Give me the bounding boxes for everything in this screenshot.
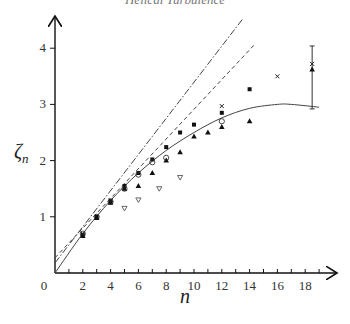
data-point-triangle-down-open xyxy=(157,187,162,192)
x-tick-label: 2 xyxy=(80,278,87,293)
data-point-triangle-filled xyxy=(177,149,183,154)
data-point-triangle-filled xyxy=(219,124,225,129)
data-point-triangle-down-open xyxy=(122,206,127,211)
y-axis-label: ζn xyxy=(14,140,29,166)
data-point-cross xyxy=(220,104,224,108)
x-tick-label: 12 xyxy=(215,278,228,293)
dash-dot-line xyxy=(55,19,243,263)
data-point-triangle-filled xyxy=(205,130,211,135)
origin-label: 0 xyxy=(41,278,48,293)
x-axis-label: n xyxy=(180,285,190,307)
data-point-circle-open xyxy=(219,119,224,124)
data-point-square-filled xyxy=(220,111,224,115)
data-point-cross xyxy=(275,74,279,78)
data-point-square-filled xyxy=(178,131,182,135)
data-point-triangle-filled xyxy=(150,170,156,175)
y-tick-label: 2 xyxy=(40,153,47,168)
data-point-triangle-filled xyxy=(136,183,142,188)
data-point-square-filled xyxy=(164,145,168,149)
x-tick-label: 14 xyxy=(243,278,257,293)
y-tick-label: 1 xyxy=(40,209,47,224)
dashed-line xyxy=(55,45,254,257)
chart-plot-area: 2468101214161801234 n ζn xyxy=(0,0,350,324)
data-point-triangle-filled xyxy=(309,67,315,72)
x-tick-label: 16 xyxy=(271,278,285,293)
axes xyxy=(55,16,337,273)
y-tick-label: 4 xyxy=(40,40,47,55)
solid-line xyxy=(55,104,319,273)
x-tick-label: 18 xyxy=(299,278,312,293)
x-tick-label: 6 xyxy=(135,278,142,293)
data-point-triangle-filled xyxy=(247,118,253,123)
data-point-square-filled xyxy=(248,87,252,91)
data-point-square-filled xyxy=(192,123,196,127)
y-tick-label: 3 xyxy=(40,96,47,111)
x-tick-label: 4 xyxy=(107,278,114,293)
data-point-triangle-down-open xyxy=(136,198,141,203)
data-point-triangle-down-open xyxy=(178,175,183,180)
x-tick-label: 8 xyxy=(163,278,170,293)
